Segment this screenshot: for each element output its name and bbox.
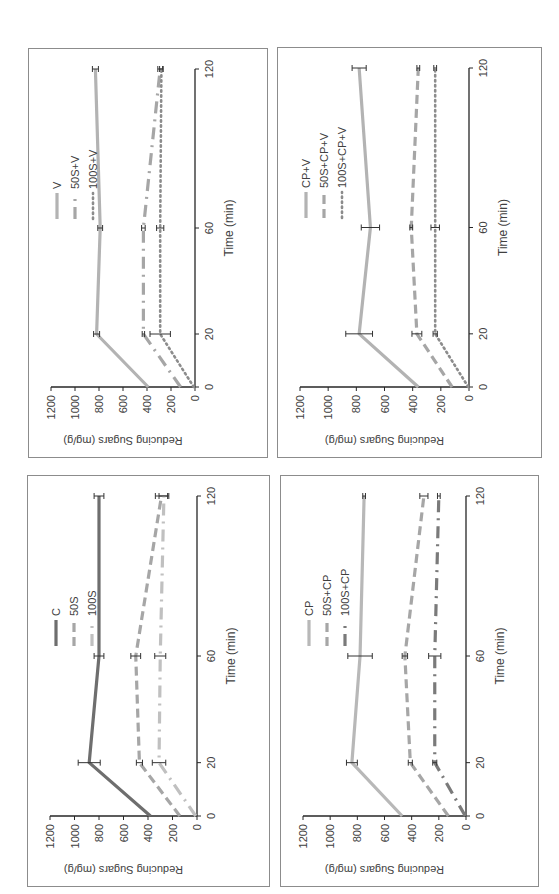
y-tick-label: 0 bbox=[189, 395, 201, 401]
y-tick-label: 0 bbox=[191, 824, 203, 830]
y-tick-label: 400 bbox=[142, 824, 154, 842]
y-tick-label: 400 bbox=[141, 395, 153, 413]
series-50s-cp bbox=[402, 493, 448, 816]
series-v bbox=[92, 66, 148, 387]
axes: 02004006008001000120002060120Time (min)R… bbox=[44, 487, 238, 876]
series-50s bbox=[131, 493, 180, 816]
x-axis-label: Time (min) bbox=[493, 628, 507, 685]
y-axis-label: Reducing Sugars (mg/g) bbox=[325, 864, 444, 876]
line-chart: 02004006008001000120002060120Time (min)R… bbox=[278, 48, 541, 457]
x-tick-label: 20 bbox=[205, 757, 217, 769]
y-tick-label: 200 bbox=[433, 824, 445, 842]
legend: C50S100S bbox=[50, 590, 98, 646]
legend-entry: 100S+CP bbox=[339, 569, 351, 616]
x-tick-label: 0 bbox=[477, 384, 489, 390]
x-tick-label: 60 bbox=[477, 221, 489, 233]
legend-entry: CP+V bbox=[300, 158, 312, 188]
x-tick-label: 0 bbox=[474, 813, 486, 819]
y-tick-label: 0 bbox=[460, 824, 472, 830]
series-100s bbox=[152, 493, 195, 816]
y-tick-label: 600 bbox=[379, 824, 391, 842]
y-tick-label: 800 bbox=[93, 824, 105, 842]
x-tick-label: 120 bbox=[474, 487, 486, 505]
axes: 02004006008001000120002060120Time (min)R… bbox=[294, 59, 510, 447]
y-tick-label: 800 bbox=[350, 395, 362, 413]
chart-panel-top-right: 02004006008001000120002060120Time (min)R… bbox=[277, 47, 542, 458]
chart-panel-bottom-right: 02004006008001000120002060120Time (min)R… bbox=[280, 475, 539, 887]
legend-entry: 100S bbox=[86, 590, 98, 616]
x-axis-label: Time (min) bbox=[496, 199, 510, 256]
legend-entry: 50S+V bbox=[69, 155, 81, 189]
x-tick-label: 120 bbox=[205, 487, 217, 505]
y-tick-label: 1200 bbox=[294, 395, 306, 419]
y-tick-label: 0 bbox=[463, 395, 475, 401]
x-tick-label: 20 bbox=[477, 328, 489, 340]
y-tick-label: 1200 bbox=[44, 824, 56, 848]
x-tick-label: 60 bbox=[203, 222, 215, 234]
legend-entry: CP bbox=[303, 601, 315, 616]
y-tick-label: 800 bbox=[351, 824, 363, 842]
x-tick-label: 20 bbox=[203, 328, 215, 340]
x-tick-label: 60 bbox=[205, 650, 217, 662]
y-tick-label: 1200 bbox=[297, 824, 309, 848]
y-tick-label: 1000 bbox=[322, 395, 334, 419]
legend-entry: 100S+V bbox=[87, 149, 99, 189]
y-tick-label: 1000 bbox=[69, 824, 81, 848]
legend: V50S+V100S+V bbox=[51, 149, 99, 219]
x-axis-label: Time (min) bbox=[222, 200, 236, 257]
series-cp-v bbox=[346, 65, 419, 387]
x-tick-label: 60 bbox=[474, 650, 486, 662]
series-c bbox=[78, 493, 150, 816]
axes: 02004006008001000120002060120Time (min)R… bbox=[297, 487, 507, 876]
y-tick-label: 200 bbox=[165, 395, 177, 413]
series-100s-cp-v bbox=[431, 65, 468, 387]
y-tick-label: 600 bbox=[118, 824, 130, 842]
line-chart: 02004006008001000120002060120Time (min)R… bbox=[281, 476, 538, 886]
y-axis-label: Reducing Sugars (mg/g) bbox=[63, 435, 182, 447]
y-tick-label: 200 bbox=[167, 824, 179, 842]
y-axis-label: Reducing Sugars (mg/g) bbox=[64, 864, 183, 876]
x-tick-label: 0 bbox=[203, 384, 215, 390]
line-chart: 02004006008001000120002060120Time (min)R… bbox=[28, 476, 269, 886]
y-tick-label: 600 bbox=[379, 395, 391, 413]
series-cp bbox=[346, 493, 402, 816]
legend: CP+V50S+CP+V100S+CP+V bbox=[300, 126, 348, 218]
legend-entry: V bbox=[51, 181, 63, 189]
legend-entry: 50S+CP+V bbox=[318, 132, 330, 188]
legend-entry: 100S+CP+V bbox=[336, 126, 348, 188]
y-tick-label: 1000 bbox=[324, 824, 336, 848]
chart-panel-bottom-left: 02004006008001000120002060120Time (min)R… bbox=[27, 475, 270, 887]
x-tick-label: 120 bbox=[203, 60, 215, 78]
legend-entry: 50S bbox=[68, 596, 80, 616]
x-tick-label: 0 bbox=[205, 813, 217, 819]
series-100s-cp bbox=[429, 493, 466, 816]
y-tick-label: 400 bbox=[407, 395, 419, 413]
line-chart: 02004006008001000120002060120Time (min)R… bbox=[29, 49, 267, 457]
chart-panel-top-left: 02004006008001000120002060120Time (min)R… bbox=[28, 48, 268, 458]
x-axis-label: Time (min) bbox=[224, 628, 238, 685]
axes: 02004006008001000120002060120Time (min)R… bbox=[45, 60, 236, 447]
series-100s-v bbox=[150, 66, 194, 387]
legend: CP50S+CP100S+CP bbox=[303, 569, 351, 646]
legend-entry: C bbox=[50, 608, 62, 616]
x-tick-label: 120 bbox=[477, 59, 489, 77]
legend-entry: 50S+CP bbox=[321, 575, 333, 616]
y-tick-label: 1200 bbox=[45, 395, 57, 419]
y-tick-label: 400 bbox=[406, 824, 418, 842]
y-tick-label: 800 bbox=[93, 395, 105, 413]
y-tick-label: 1000 bbox=[69, 395, 81, 419]
x-tick-label: 20 bbox=[474, 757, 486, 769]
y-axis-label: Reducing Sugars (mg/g) bbox=[325, 435, 444, 447]
y-tick-label: 600 bbox=[117, 395, 129, 413]
y-tick-label: 200 bbox=[435, 395, 447, 413]
